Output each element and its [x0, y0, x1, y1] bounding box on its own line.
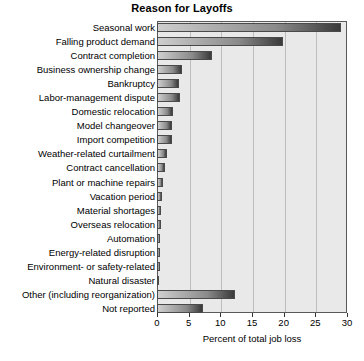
x-tick-label: 25	[310, 317, 321, 328]
category-label: Seasonal work	[3, 21, 155, 35]
bar-row: Energy-related disruption	[0, 246, 364, 260]
bar-row: Import competition	[0, 133, 364, 147]
category-label: Model changeover	[3, 119, 155, 133]
bar	[157, 234, 160, 243]
category-label: Plant or machine repairs	[3, 176, 155, 190]
bar	[157, 93, 180, 102]
category-label: Vacation period	[3, 190, 155, 204]
category-label: Import competition	[3, 133, 155, 147]
bar-row: Automation	[0, 232, 364, 246]
category-label: Environment- or safety-related	[3, 260, 155, 274]
bar-row: Contract cancellation	[0, 161, 364, 175]
bar	[157, 79, 179, 88]
bar-row: Vacation period	[0, 190, 364, 204]
bar	[157, 248, 160, 257]
category-label: Automation	[3, 232, 155, 246]
bar-rows: Seasonal workFalling product demandContr…	[0, 21, 364, 313]
bar	[157, 178, 163, 187]
bar	[157, 290, 235, 299]
x-tick-label: 5	[186, 317, 191, 328]
bar-row: Environment- or safety-related	[0, 260, 364, 274]
category-label: Overseas relocation	[3, 218, 155, 232]
bar	[157, 304, 203, 313]
bar-chart: Reason for Layoffs Seasonal workFalling …	[0, 0, 364, 361]
x-tick-label: 15	[247, 317, 258, 328]
bar	[157, 23, 341, 32]
category-label: Weather-related curtailment	[3, 147, 155, 161]
category-label: Natural disaster	[3, 274, 155, 288]
bar	[157, 220, 161, 229]
chart-title: Reason for Layoffs	[0, 2, 364, 14]
bar-row: Labor-management dispute	[0, 91, 364, 105]
bar	[157, 149, 167, 158]
bar-row: Bankruptcy	[0, 77, 364, 91]
bar-row: Other (including reorganization)	[0, 288, 364, 302]
bar-row: Business ownership change	[0, 63, 364, 77]
category-label: Bankruptcy	[3, 77, 155, 91]
bar	[157, 121, 172, 130]
x-tick-label: 10	[215, 317, 226, 328]
category-label: Business ownership change	[3, 63, 155, 77]
bar-row: Seasonal work	[0, 21, 364, 35]
bar	[157, 37, 283, 46]
bar-row: Plant or machine repairs	[0, 176, 364, 190]
category-label: Other (including reorganization)	[3, 288, 155, 302]
bar-row: Model changeover	[0, 119, 364, 133]
bar	[157, 192, 162, 201]
bar-row: Material shortages	[0, 204, 364, 218]
category-label: Material shortages	[3, 204, 155, 218]
category-label: Falling product demand	[3, 35, 155, 49]
bar	[157, 107, 173, 116]
bar	[157, 262, 160, 271]
bar	[157, 206, 161, 215]
x-axis-title: Percent of total job loss	[157, 333, 347, 344]
bar	[157, 276, 159, 285]
bar	[157, 135, 172, 144]
x-axis: 051015202530	[0, 313, 364, 329]
bar-row: Falling product demand	[0, 35, 364, 49]
bar-row: Weather-related curtailment	[0, 147, 364, 161]
x-tick-label: 20	[278, 317, 289, 328]
bar-row: Natural disaster	[0, 274, 364, 288]
category-label: Domestic relocation	[3, 105, 155, 119]
bar-row: Contract completion	[0, 49, 364, 63]
x-tick-label: 30	[342, 317, 353, 328]
bar	[157, 51, 212, 60]
bar-row: Domestic relocation	[0, 105, 364, 119]
category-label: Contract cancellation	[3, 161, 155, 175]
category-label: Contract completion	[3, 49, 155, 63]
x-tick-label: 0	[154, 317, 159, 328]
bar	[157, 163, 165, 172]
category-label: Labor-management dispute	[3, 91, 155, 105]
bar-row: Overseas relocation	[0, 218, 364, 232]
bar	[157, 65, 182, 74]
category-label: Energy-related disruption	[3, 246, 155, 260]
